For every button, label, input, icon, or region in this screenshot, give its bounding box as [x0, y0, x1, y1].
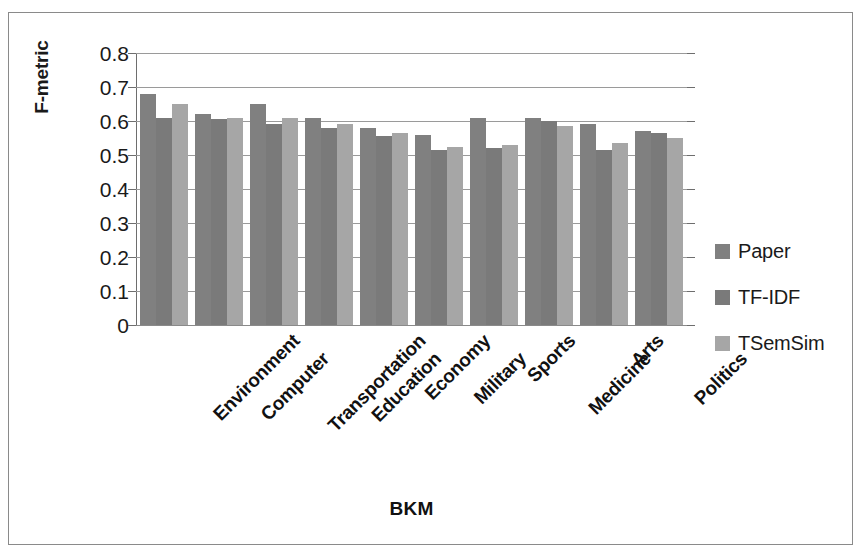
y-tick-label: 0.1 [71, 281, 129, 302]
bar-group [470, 53, 518, 325]
bar [470, 118, 486, 325]
y-tickmark [128, 87, 136, 88]
bar [227, 118, 243, 325]
y-tickmark [128, 121, 136, 122]
bar-group [305, 53, 353, 325]
bar [392, 133, 408, 325]
y-tickmark-right [687, 257, 695, 258]
x-axis-title: BKM [136, 498, 687, 520]
bar-group [415, 53, 463, 325]
y-tickmark [128, 325, 136, 326]
bar [195, 114, 211, 325]
bar [156, 118, 172, 325]
bar-group [580, 53, 628, 325]
y-tick-label: 0 [71, 315, 129, 336]
y-tickmark-right [687, 189, 695, 190]
y-axis-tick-labels: 0.80.70.60.50.40.30.20.10 [71, 41, 129, 337]
y-tick-label: 0.3 [71, 213, 129, 234]
bar [651, 133, 667, 325]
bar [447, 147, 463, 326]
y-tickmark [128, 223, 136, 224]
y-tickmark-right [687, 223, 695, 224]
bar [266, 124, 282, 325]
y-tickmark [128, 257, 136, 258]
bars-layer [136, 53, 687, 325]
y-axis-title: F-metric [31, 7, 55, 147]
legend-label: TF-IDF [738, 286, 800, 309]
bar [376, 136, 392, 325]
bar [321, 128, 337, 325]
bar [305, 118, 321, 325]
bar [360, 128, 376, 325]
y-tickmark-right [687, 121, 695, 122]
y-tickmark [128, 53, 136, 54]
y-tickmark-right [687, 87, 695, 88]
y-tickmark-right [687, 291, 695, 292]
bar [612, 143, 628, 325]
bar [172, 104, 188, 325]
bar-group [250, 53, 298, 325]
x-axis-tick-labels: EnvironmentComputerTransportationEducati… [136, 326, 736, 456]
legend-swatch-icon [715, 336, 730, 351]
bar-group [140, 53, 188, 325]
y-tick-label: 0.8 [71, 43, 129, 64]
bar [557, 126, 573, 325]
y-tickmark [128, 189, 136, 190]
bar [211, 119, 227, 325]
bar [502, 145, 518, 325]
y-tick-label: 0.2 [71, 247, 129, 268]
chart-legend: PaperTF-IDFTSemSim [715, 228, 824, 366]
y-tickmark [128, 155, 136, 156]
bar [541, 121, 557, 325]
y-tick-label: 0.5 [71, 145, 129, 166]
legend-item[interactable]: TSemSim [715, 320, 824, 366]
bar-group [525, 53, 573, 325]
y-tickmark-right [687, 325, 695, 326]
bar [337, 124, 353, 325]
y-tickmark [128, 291, 136, 292]
bar [431, 150, 447, 325]
legend-label: TSemSim [738, 332, 824, 355]
bar [415, 135, 431, 325]
legend-swatch-icon [715, 244, 730, 259]
legend-item[interactable]: TF-IDF [715, 274, 824, 320]
plot-area [136, 53, 687, 325]
bar [596, 150, 612, 325]
bar [282, 118, 298, 325]
bar [667, 138, 683, 325]
legend-item[interactable]: Paper [715, 228, 824, 274]
y-tick-label: 0.4 [71, 179, 129, 200]
bar-group [635, 53, 683, 325]
y-tick-label: 0.6 [71, 111, 129, 132]
bar-group [360, 53, 408, 325]
bar [250, 104, 266, 325]
legend-swatch-icon [715, 290, 730, 305]
bar-group [195, 53, 243, 325]
chart-figure: F-metric 0.80.70.60.50.40.30.20.10 Envir… [8, 12, 853, 545]
bar [140, 94, 156, 325]
legend-label: Paper [738, 240, 790, 263]
y-tickmark-right [687, 155, 695, 156]
y-tickmark-right [687, 53, 695, 54]
bar [486, 148, 502, 325]
bar [525, 118, 541, 325]
y-tick-label: 0.7 [71, 77, 129, 98]
bar [580, 124, 596, 325]
bar [635, 131, 651, 325]
x-tick-label: Sports [523, 330, 580, 387]
